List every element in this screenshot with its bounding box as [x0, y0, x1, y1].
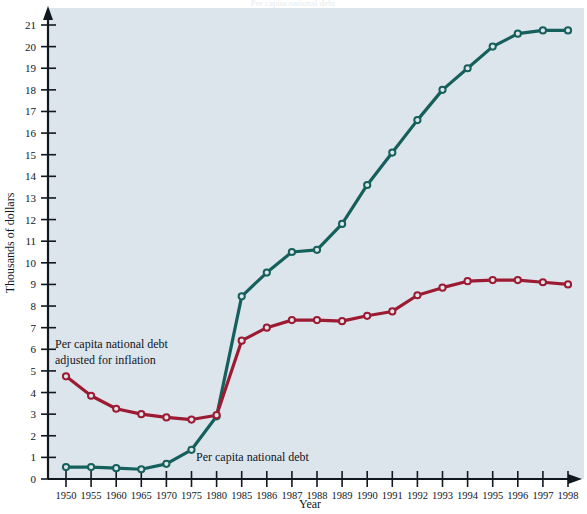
data-point-marker: [364, 182, 370, 188]
plot-background: [48, 8, 584, 479]
y-tick-label: 21: [25, 19, 36, 31]
x-tick-label: 1960: [106, 490, 127, 501]
y-tick-label: 19: [25, 62, 37, 74]
y-tick-label: 18: [25, 84, 37, 96]
data-point-marker: [389, 308, 395, 314]
x-tick-label: 1992: [407, 490, 428, 501]
x-tick-label: 1985: [231, 490, 252, 501]
data-point-marker: [289, 317, 295, 323]
annotation-red-line2: adjusted for inflation: [55, 353, 156, 367]
data-point-marker: [63, 464, 69, 470]
y-tick-label: 15: [25, 149, 37, 161]
x-axis-title: Year: [299, 497, 321, 511]
x-axis-ticks: [66, 471, 568, 487]
y-tick-label: 17: [25, 105, 37, 117]
data-point-marker: [565, 27, 571, 33]
x-tick-label: 1990: [357, 490, 378, 501]
data-point-marker: [540, 27, 546, 33]
x-tick-label: 1975: [181, 490, 202, 501]
data-point-marker: [138, 466, 144, 472]
y-tick-label: 3: [31, 408, 37, 420]
y-tick-label: 1: [31, 451, 37, 463]
line-chart: Per capita national debt 012345678910111…: [0, 0, 587, 514]
data-point-marker: [188, 416, 194, 422]
y-tick-label: 13: [25, 192, 37, 204]
annotation-red-line1: Per capita national debt: [55, 337, 169, 351]
data-point-marker: [364, 313, 370, 319]
data-point-marker: [264, 325, 270, 331]
x-tick-label: 1998: [558, 490, 579, 501]
y-tick-label: 4: [31, 387, 37, 399]
x-tick-label: 1986: [256, 490, 277, 501]
data-point-marker: [515, 277, 521, 283]
data-point-marker: [239, 293, 245, 299]
y-tick-label: 20: [25, 41, 37, 53]
data-point-marker: [239, 338, 245, 344]
x-tick-label: 1991: [382, 490, 403, 501]
x-tick-label: 1980: [206, 490, 227, 501]
x-tick-label: 1995: [482, 490, 503, 501]
annotation-teal-series: Per capita national debt: [196, 450, 310, 464]
data-point-marker: [490, 277, 496, 283]
x-tick-label: 1996: [507, 490, 528, 501]
data-point-marker: [339, 318, 345, 324]
x-tick-label: 1997: [532, 490, 553, 501]
y-tick-label: 14: [25, 170, 37, 182]
x-tick-label: 1950: [56, 490, 77, 501]
data-point-marker: [515, 31, 521, 37]
x-tick-label: 1965: [131, 490, 152, 501]
data-point-marker: [439, 285, 445, 291]
data-point-marker: [113, 406, 119, 412]
data-point-marker: [314, 247, 320, 253]
y-tick-label: 7: [31, 322, 37, 334]
y-tick-label: 12: [25, 214, 36, 226]
y-axis-tick-labels: 0123456789101112131415161718192021: [25, 19, 37, 485]
annotation-teal-line: Per capita national debt: [196, 450, 310, 464]
chart-container: Per capita national debt 012345678910111…: [0, 0, 587, 514]
y-tick-label: 0: [31, 473, 37, 485]
x-tick-label: 1994: [457, 490, 479, 501]
data-point-marker: [163, 414, 169, 420]
y-axis-title: Thousands of dollars: [3, 192, 17, 293]
data-point-marker: [264, 269, 270, 275]
data-point-marker: [414, 117, 420, 123]
y-tick-label: 2: [31, 430, 37, 442]
x-tick-label: 1989: [332, 490, 353, 501]
y-tick-label: 9: [31, 278, 37, 290]
data-point-marker: [439, 87, 445, 93]
y-tick-label: 16: [25, 127, 37, 139]
data-point-marker: [214, 412, 220, 418]
y-tick-label: 6: [31, 343, 37, 355]
y-tick-label: 8: [31, 300, 37, 312]
data-point-marker: [188, 447, 194, 453]
y-tick-label: 11: [25, 235, 36, 247]
x-tick-label: 1955: [81, 490, 102, 501]
data-point-marker: [88, 393, 94, 399]
data-point-marker: [88, 464, 94, 470]
data-point-marker: [465, 278, 471, 284]
data-point-marker: [465, 65, 471, 71]
y-tick-label: 10: [25, 257, 37, 269]
data-point-marker: [138, 411, 144, 417]
data-point-marker: [490, 44, 496, 50]
data-point-marker: [289, 249, 295, 255]
data-point-marker: [414, 292, 420, 298]
data-point-marker: [63, 373, 69, 379]
page-header-title: Per capita national debt: [251, 0, 336, 8]
data-point-marker: [113, 465, 119, 471]
data-point-marker: [389, 149, 395, 155]
data-point-marker: [540, 279, 546, 285]
x-tick-label: 1993: [432, 490, 453, 501]
data-point-marker: [314, 317, 320, 323]
data-point-marker: [565, 281, 571, 287]
data-point-marker: [163, 461, 169, 467]
x-tick-label: 1970: [156, 490, 177, 501]
data-point-marker: [339, 221, 345, 227]
y-tick-label: 5: [31, 365, 37, 377]
